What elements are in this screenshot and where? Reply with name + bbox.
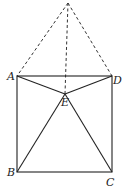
segment-be [17,94,65,172]
label-e: E [60,96,69,109]
segment-de [65,76,112,94]
dashed-edge-apex-a [17,3,68,76]
segment-ce [65,94,112,172]
segment-ae [17,76,65,94]
label-d: D [112,74,122,87]
geometry-diagram: A D E B C [0,0,126,187]
label-c: C [106,176,115,187]
dashed-edge-apex-e [65,3,68,94]
dashed-edge-apex-d [68,3,112,76]
label-b: B [6,166,15,179]
label-a: A [6,70,15,83]
square-abcd [17,76,112,172]
